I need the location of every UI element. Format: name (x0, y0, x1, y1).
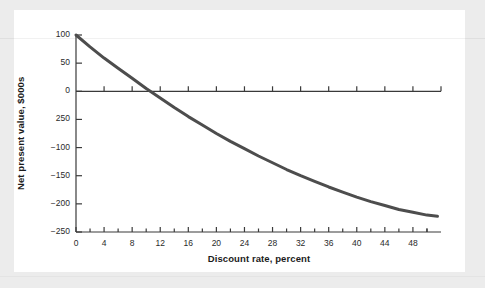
x-tick-label: 8 (120, 238, 144, 248)
npv-curve (76, 35, 437, 216)
y-tick-label: 0 (30, 85, 70, 95)
x-tick-label: 4 (92, 238, 116, 248)
x-tick-label: 40 (345, 238, 369, 248)
x-axis-title: Discount rate, percent (76, 253, 442, 264)
y-tick-label: 100 (30, 29, 70, 39)
x-tick-label: 44 (373, 238, 397, 248)
y-axis-ticks (76, 35, 82, 232)
x-tick-label: 20 (204, 238, 228, 248)
x-tick-label: 24 (232, 238, 256, 248)
y-tick-label: −250 (30, 226, 70, 236)
x-tick-label: 0 (64, 238, 88, 248)
x-axis-major-ticks (76, 227, 413, 232)
x-tick-label: 36 (317, 238, 341, 248)
x-tick-label: 12 (148, 238, 172, 248)
y-tick-label: 50 (30, 57, 70, 67)
y-axis-title-text: Net present value, $000s (15, 77, 26, 190)
x-tick-label: 32 (289, 238, 313, 248)
y-tick-label: −200 (30, 198, 70, 208)
y-tick-label: −150 (30, 170, 70, 180)
y-tick-label: −100 (30, 142, 70, 152)
zero-line-ticks (104, 86, 441, 91)
y-tick-label: 250 (30, 113, 70, 123)
x-tick-label: 16 (176, 238, 200, 248)
npv-chart: 100500250−100−150−200−250 04812162024283… (0, 0, 485, 288)
x-tick-label: 28 (261, 238, 285, 248)
figure-page: 100500250−100−150−200−250 04812162024283… (0, 0, 485, 288)
x-tick-label: 48 (401, 238, 425, 248)
